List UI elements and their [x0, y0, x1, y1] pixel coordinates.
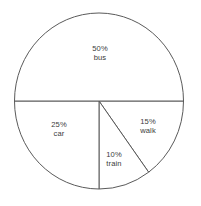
pie-label-percent-bus: 50% — [92, 44, 108, 53]
pie-slice-group — [15, 13, 184, 189]
pie-label-train: 10%train — [106, 150, 122, 169]
pie-chart-figure: 15%walk10%train25%car50%bus — [0, 0, 201, 206]
pie-label-percent-train: 10% — [106, 150, 122, 159]
pie-label-car: 25%car — [51, 120, 67, 139]
pie-label-percent-walk: 15% — [140, 117, 156, 126]
pie-label-name-train: train — [106, 159, 122, 168]
pie-label-name-walk: walk — [140, 126, 156, 135]
pie-slice-car — [15, 101, 100, 189]
pie-label-percent-car: 25% — [51, 120, 67, 129]
pie-label-bus: 50%bus — [92, 44, 108, 63]
pie-label-name-car: car — [51, 129, 67, 138]
pie-label-name-bus: bus — [92, 53, 108, 62]
pie-label-walk: 15%walk — [140, 117, 156, 136]
pie-chart-svg — [0, 0, 201, 206]
